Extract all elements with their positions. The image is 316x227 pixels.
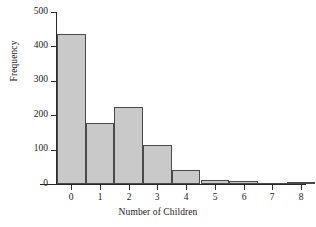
histogram-bar: [57, 34, 86, 184]
x-tick-label: 4: [172, 192, 200, 202]
x-tick-label: 2: [115, 192, 143, 202]
x-tick-label: 7: [258, 192, 286, 202]
x-tick: [186, 185, 187, 190]
x-tick: [100, 185, 101, 190]
x-axis-line: [40, 184, 306, 185]
x-tick-label: 0: [57, 192, 85, 202]
x-tick: [157, 185, 158, 190]
x-tick-label: 8: [287, 192, 315, 202]
x-tick: [272, 185, 273, 190]
histogram-bar: [86, 123, 115, 184]
x-tick: [215, 185, 216, 190]
histogram-bar: [172, 170, 201, 184]
x-tick-label: 5: [201, 192, 229, 202]
x-axis-label: Number of Children: [0, 207, 316, 217]
histogram-bar: [143, 145, 172, 184]
x-tick: [301, 185, 302, 190]
x-tick-label: 1: [86, 192, 114, 202]
x-tick: [129, 185, 130, 190]
x-tick: [244, 185, 245, 190]
histogram-bar: [114, 107, 143, 184]
x-tick-label: 3: [143, 192, 171, 202]
x-tick-label: 6: [230, 192, 258, 202]
histogram-figure: Frequency 0100200300400500 012345678 Num…: [0, 0, 316, 227]
x-tick: [71, 185, 72, 190]
